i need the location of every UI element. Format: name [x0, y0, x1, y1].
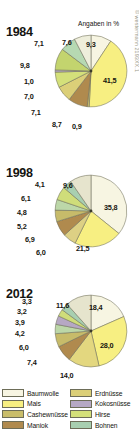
- legend-item-cashewnuesse: Cashewnüsse: [2, 409, 69, 420]
- slice-value: 1,0: [24, 77, 34, 86]
- slice-value: 4,2: [15, 329, 25, 338]
- pie-center-dot: [90, 330, 93, 333]
- slice-value: 8,7: [52, 120, 62, 129]
- legend-swatch: [2, 410, 24, 418]
- slice-value: 4,8: [17, 208, 27, 217]
- slice-value: 7,4: [27, 358, 37, 367]
- slice-value: 4,1: [35, 180, 45, 189]
- legend-item-hirse: Hirse: [70, 409, 137, 420]
- slice-value: 21,5: [76, 244, 89, 253]
- legend-swatch: [70, 421, 92, 429]
- slice-value: 3,9: [15, 318, 25, 327]
- year-label-1998: 1998: [6, 166, 33, 180]
- legend-swatch: [70, 400, 92, 408]
- slice-value: 7,6: [62, 38, 72, 47]
- legend-label: Erdnüsse: [95, 390, 122, 397]
- slice-value: 11,6: [56, 301, 69, 310]
- legend-swatch: [2, 421, 24, 429]
- slice-value: 9,6: [63, 181, 73, 190]
- slice-value: 3,3: [22, 297, 32, 306]
- slice-value: 7,0: [24, 92, 34, 101]
- legend-label: Cashewnüsse: [27, 411, 68, 418]
- legend-swatch: [2, 389, 24, 397]
- legend-label: Kokosnüsse: [95, 400, 130, 407]
- units-note: Angaben in %: [78, 20, 119, 27]
- slice-value: 18,4: [89, 303, 102, 312]
- legend-swatch: [70, 389, 92, 397]
- legend-swatch: [2, 400, 24, 408]
- legend-item-bohnen: Bohnen: [70, 420, 137, 431]
- pie-center-dot: [90, 70, 93, 73]
- slice-value: 5,2: [17, 222, 27, 231]
- legend-item-maniok: Maniok: [2, 420, 69, 431]
- legend-item-baumwolle: Baumwolle: [2, 388, 69, 399]
- pie-center-dot: [90, 210, 93, 213]
- slice-value: 28,0: [100, 341, 113, 350]
- legend-item-erdnuesse: Erdnüsse: [70, 388, 137, 399]
- slice-value: 3,2: [17, 307, 27, 316]
- slice-value: 7,1: [34, 39, 44, 48]
- copyright-watermark: © westermann 2193XX.1: [134, 10, 139, 72]
- year-label-1984: 1984: [6, 25, 33, 39]
- legend-item-mais: Mais: [2, 399, 69, 410]
- slice-value: 7,1: [31, 108, 41, 117]
- slice-value: 9,3: [86, 40, 96, 49]
- legend-swatch: [70, 410, 92, 418]
- legend-label: Hirse: [95, 411, 110, 418]
- slice-value: 41,5: [103, 76, 116, 85]
- legend-item-kokosnuesse: Kokosnüsse: [70, 399, 137, 410]
- slice-value: 6,0: [19, 343, 29, 352]
- legend-label: Baumwolle: [27, 390, 59, 397]
- slice-value: 0,9: [72, 122, 82, 131]
- infographic-root: 1984 Angaben in % 9,3 41,5 0,9 8,7 7,1 7…: [0, 0, 139, 431]
- slice-value: 35,8: [104, 203, 117, 212]
- slice-value: 14,0: [60, 371, 73, 380]
- slice-value: 6,9: [25, 235, 35, 244]
- slice-value: 6,1: [21, 194, 31, 203]
- legend-label: Mais: [27, 400, 41, 407]
- slice-value: 9,8: [20, 61, 30, 70]
- legend: Baumwolle Erdnüsse Mais Kokosnüsse Cashe…: [2, 388, 137, 430]
- slice-value: 6,0: [36, 248, 46, 257]
- legend-label: Maniok: [27, 422, 48, 429]
- legend-label: Bohnen: [95, 422, 117, 429]
